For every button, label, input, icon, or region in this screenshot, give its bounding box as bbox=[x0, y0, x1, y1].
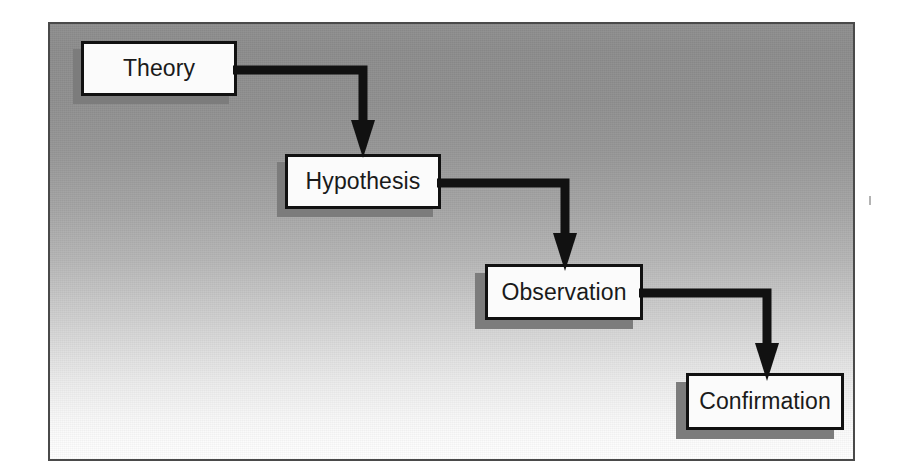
scan-artifact-speck bbox=[869, 196, 871, 205]
connector-path bbox=[437, 183, 565, 235]
arrowhead-down-icon bbox=[351, 120, 375, 158]
connector-theory-to-hypothesis bbox=[233, 60, 383, 180]
connector-theory-to-hypothesis-svg bbox=[233, 60, 383, 180]
node-theory-label: Theory bbox=[123, 57, 195, 80]
figure-frame: Theory Hypothesis Observation Confirmati… bbox=[48, 22, 855, 461]
connector-observation-to-confirmation bbox=[639, 283, 789, 403]
arrowhead-down-icon bbox=[553, 233, 577, 271]
connector-hypothesis-to-observation bbox=[437, 173, 587, 293]
connector-path bbox=[639, 293, 767, 345]
node-theory[interactable]: Theory bbox=[81, 41, 237, 96]
connector-hypothesis-to-observation-svg bbox=[437, 173, 587, 293]
arrowhead-down-icon bbox=[755, 343, 779, 381]
connector-path bbox=[233, 70, 363, 122]
connector-observation-to-confirmation-svg bbox=[639, 283, 789, 403]
scanned-page: Theory Hypothesis Observation Confirmati… bbox=[0, 0, 906, 475]
flowchart: Theory Hypothesis Observation Confirmati… bbox=[50, 24, 853, 459]
